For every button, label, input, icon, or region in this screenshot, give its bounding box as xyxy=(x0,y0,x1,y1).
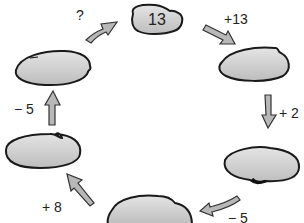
edge-label-minus-5-left: − 5 xyxy=(14,102,34,116)
node-lower-right xyxy=(225,147,299,183)
arrow-to-lower-right xyxy=(262,95,276,128)
arrow-to-upper-right xyxy=(203,25,235,44)
edge-label-plus-2: + 2 xyxy=(279,106,299,120)
arrow-to-upper-left xyxy=(45,91,60,125)
edge-label-plus-8: + 8 xyxy=(42,200,62,214)
diagram-canvas xyxy=(0,0,304,223)
arrow-to-top xyxy=(86,22,117,43)
edge-label-plus-13: +13 xyxy=(224,12,248,26)
node-top-value: 13 xyxy=(148,12,166,28)
node-lower-left xyxy=(6,133,80,168)
arrow-to-lower-left xyxy=(67,174,94,206)
node-upper-right xyxy=(219,48,288,81)
node-upper-left xyxy=(16,51,91,85)
number-cycle-diagram: 13 ? +13 + 2 − 5 + 8 − 5 xyxy=(0,0,304,223)
edge-label-unknown: ? xyxy=(76,8,84,22)
node-bottom xyxy=(108,196,192,223)
edge-label-minus-5-bottom: − 5 xyxy=(228,211,248,223)
